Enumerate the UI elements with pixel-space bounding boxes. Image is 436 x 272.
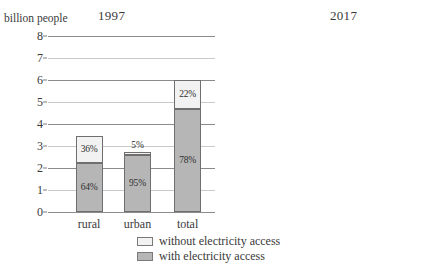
y-tick-label: 2 bbox=[37, 162, 43, 174]
chart-legend: without electricity access with electric… bbox=[137, 234, 347, 264]
y-tick-label: 5 bbox=[37, 96, 43, 108]
bar-segment-without-electricity: 36% bbox=[76, 136, 103, 163]
bar-segment-label: 64% bbox=[81, 183, 98, 193]
legend-label-without: without electricity access bbox=[159, 234, 280, 249]
gridline bbox=[48, 58, 215, 59]
bar-segment-label: 5% bbox=[131, 141, 143, 151]
stacked-bar: 95%5%urban bbox=[124, 152, 151, 212]
y-tick-label: 8 bbox=[37, 30, 43, 42]
legend-item-with: with electricity access bbox=[137, 249, 347, 264]
bar-segment-with-electricity: 64% bbox=[76, 163, 103, 212]
x-axis-label-total: total bbox=[177, 217, 198, 232]
bar-segment-with-electricity: 78% bbox=[174, 109, 201, 212]
bar-segment-label: 78% bbox=[179, 156, 196, 166]
y-tick-mark bbox=[43, 36, 47, 37]
plot-area-1997: 01234567864%36%rural95%5%urban78%22%tota… bbox=[48, 36, 215, 212]
y-tick-mark bbox=[43, 124, 47, 125]
bar-segment-label: 36% bbox=[81, 145, 98, 155]
bar-segment-label: 95% bbox=[129, 179, 146, 189]
gridline bbox=[48, 36, 215, 37]
y-tick-mark bbox=[43, 212, 47, 213]
legend-swatch-with-icon bbox=[137, 252, 153, 261]
chart-panel-2017: 79%21%rural97%3%urban89%11%total bbox=[222, 0, 436, 232]
y-tick-mark bbox=[43, 168, 47, 169]
y-tick-mark bbox=[43, 146, 47, 147]
legend-item-without: without electricity access bbox=[137, 234, 347, 249]
stacked-bar: 64%36%rural bbox=[76, 136, 103, 212]
stacked-bar: 78%22%total bbox=[174, 80, 201, 212]
y-tick-label: 6 bbox=[37, 74, 43, 86]
x-axis-label-rural: rural bbox=[78, 217, 101, 232]
y-tick-label: 4 bbox=[37, 118, 43, 130]
y-tick-label: 7 bbox=[37, 52, 43, 64]
y-tick-mark bbox=[43, 102, 47, 103]
chart-panel-1997: 01234567864%36%rural95%5%urban78%22%tota… bbox=[0, 0, 222, 232]
gridline bbox=[48, 212, 215, 213]
y-tick-label: 3 bbox=[37, 140, 43, 152]
y-tick-label: 0 bbox=[37, 206, 43, 218]
bar-segment-with-electricity: 95% bbox=[124, 155, 151, 212]
y-tick-label: 1 bbox=[37, 184, 43, 196]
bar-segment-without-electricity: 22% bbox=[174, 80, 201, 109]
electricity-access-figure: billion people 1997 2017 01234567864%36%… bbox=[0, 0, 436, 272]
y-tick-mark bbox=[43, 58, 47, 59]
y-tick-mark bbox=[43, 190, 47, 191]
bar-segment-without-electricity: 5% bbox=[124, 152, 151, 155]
legend-label-with: with electricity access bbox=[159, 249, 265, 264]
x-axis-label-urban: urban bbox=[124, 217, 151, 232]
bar-segment-label: 22% bbox=[179, 90, 196, 100]
legend-swatch-without-icon bbox=[137, 237, 153, 246]
y-tick-mark bbox=[43, 80, 47, 81]
